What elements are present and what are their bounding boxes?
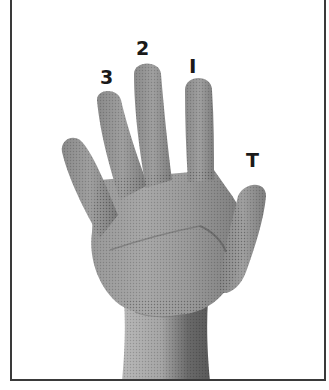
ring-finger-label: 3 [100, 68, 113, 87]
thumb-label: T [246, 151, 259, 170]
hand-illustration [0, 0, 329, 390]
middle-finger-label: 2 [136, 39, 149, 58]
index-finger-label: I [189, 56, 196, 76]
